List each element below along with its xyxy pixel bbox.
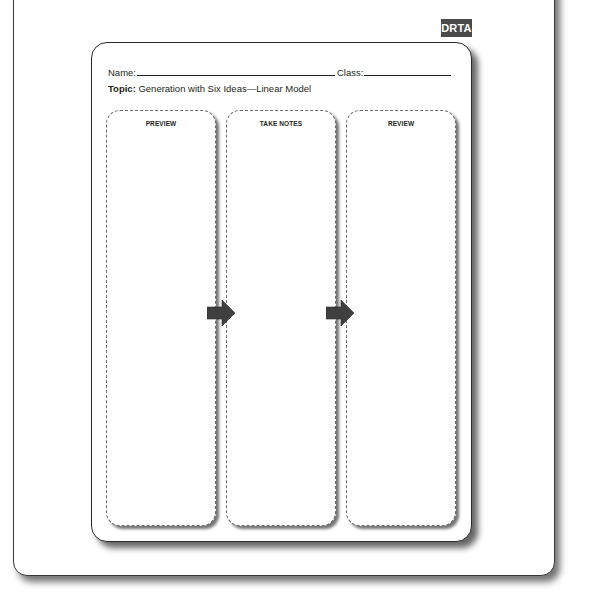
arrow-right-icon [326,300,354,326]
topic-value: Generation with Six Ideas—Linear Model [138,83,311,94]
drta-badge: DRTA [441,19,472,37]
name-label: Name: [108,67,136,78]
column-preview[interactable]: PREVIEW [106,110,216,526]
name-field[interactable] [137,65,335,76]
column-take-notes[interactable]: TAKE NOTES [226,110,336,526]
class-field[interactable] [364,65,451,76]
name-class-row: Name: Class: [108,62,453,78]
topic-label: Topic: [108,83,136,94]
column-review[interactable]: REVIEW [346,110,456,526]
column-title: PREVIEW [107,120,215,127]
topic-row: Topic: Generation with Six Ideas—Linear … [108,83,311,94]
column-title: TAKE NOTES [227,120,335,127]
arrow-right-icon [207,300,235,326]
class-label: Class: [337,67,363,78]
column-title: REVIEW [347,120,455,127]
